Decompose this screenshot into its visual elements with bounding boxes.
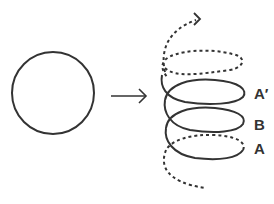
diagram-svg: A′ B A xyxy=(0,0,274,204)
helix-loop-a-prime xyxy=(162,75,245,104)
label-b: B xyxy=(254,116,265,133)
helix-top-arrowhead-icon xyxy=(194,13,200,25)
circle-shape xyxy=(12,52,94,134)
helix-loop-a-dotted xyxy=(166,135,244,150)
label-a: A xyxy=(254,140,265,157)
transform-arrow-icon xyxy=(111,89,146,103)
label-a-prime: A′ xyxy=(254,85,269,102)
helix-top-dotted-lead xyxy=(164,20,196,72)
helix-spiral xyxy=(162,13,245,188)
helix-dotted-loop-top xyxy=(162,51,242,78)
diagram-canvas: A′ B A xyxy=(0,0,274,204)
